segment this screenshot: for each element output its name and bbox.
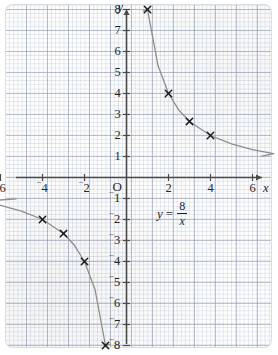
- x-tick-label: ¯4: [37, 182, 48, 195]
- fraction-numerator: 8: [177, 200, 187, 213]
- y-tick-label: ¯3: [110, 234, 121, 247]
- plotted-point-cross: [39, 216, 45, 222]
- x-tick-label: ¯6: [0, 182, 6, 195]
- y-axis-label: y: [118, 0, 124, 15]
- graph-figure: ¯6¯4¯224687654321¯1¯2¯3¯4¯5¯6¯7¯8 O x y …: [0, 0, 278, 355]
- tick-value: 4: [114, 254, 120, 268]
- x-tick-label: 2: [166, 182, 172, 195]
- negative-sign: ¯: [110, 339, 114, 348]
- tick-value: 3: [115, 107, 121, 121]
- y-tick-label: ¯5: [110, 276, 121, 289]
- x-tick-label: 6: [250, 182, 256, 195]
- equation-equals: =: [166, 206, 173, 222]
- negative-sign: ¯: [110, 255, 114, 264]
- tick-value: 5: [115, 65, 121, 79]
- tick-value: 4: [208, 181, 214, 195]
- fraction-denominator: x: [177, 213, 186, 227]
- tick-value: 7: [115, 23, 121, 37]
- negative-sign: ¯: [110, 318, 114, 327]
- tick-value: 6: [0, 181, 6, 195]
- negative-sign: ¯: [110, 297, 114, 306]
- y-tick-label: 1: [115, 150, 121, 163]
- tick-value: 7: [114, 317, 120, 331]
- curve-branch: [148, 10, 274, 154]
- tick-value: 2: [115, 128, 121, 142]
- equation-lhs: y: [157, 206, 163, 222]
- y-tick-label: 4: [115, 87, 121, 100]
- negative-sign: ¯: [110, 234, 114, 243]
- tick-value: 6: [115, 44, 121, 58]
- plotted-point-cross: [60, 230, 66, 236]
- plotted-point-cross: [165, 90, 171, 96]
- plotted-point-cross: [207, 132, 213, 138]
- y-tick-label: 6: [115, 45, 121, 58]
- plotted-point-cross: [81, 258, 87, 264]
- x-tick-label: 4: [208, 182, 214, 195]
- origin-label: O: [113, 179, 122, 195]
- axes-group: [16, 9, 262, 344]
- x-tick-label: ¯2: [79, 182, 90, 195]
- y-tick-label: ¯8: [110, 339, 121, 352]
- x-axis-label: x: [263, 181, 269, 196]
- negative-sign: ¯: [79, 182, 83, 191]
- y-tick-label: 7: [115, 24, 121, 37]
- plotted-point-cross: [186, 118, 192, 124]
- tick-value: 1: [115, 149, 121, 163]
- y-tick-label: 2: [115, 129, 121, 142]
- negative-sign: ¯: [37, 182, 41, 191]
- equation-fraction: 8 x: [177, 200, 187, 227]
- tick-value: 4: [42, 181, 48, 195]
- tick-value: 8: [114, 338, 120, 352]
- tick-value: 5: [114, 275, 120, 289]
- tick-value: 3: [114, 233, 120, 247]
- tick-value: 2: [84, 181, 90, 195]
- curve-tail: [262, 154, 274, 157]
- tick-value: 6: [250, 181, 256, 195]
- y-tick-label: ¯6: [110, 297, 121, 310]
- y-tick-label: 3: [115, 108, 121, 121]
- y-tick-label: 5: [115, 66, 121, 79]
- graph-plot-area: [0, 0, 278, 355]
- negative-sign: ¯: [110, 213, 114, 222]
- tick-value: 6: [114, 296, 120, 310]
- equation-annotation: y = 8 x: [157, 200, 187, 227]
- negative-sign: ¯: [110, 276, 114, 285]
- x-axis-arrow-icon: [256, 175, 262, 181]
- y-tick-label: ¯4: [110, 255, 121, 268]
- curve-branch: [0, 201, 106, 345]
- y-tick-label: ¯7: [110, 318, 121, 331]
- tick-value: 2: [114, 212, 120, 226]
- tick-value: 2: [166, 181, 172, 195]
- tick-value: 4: [115, 86, 121, 100]
- y-tick-label: ¯2: [110, 213, 121, 226]
- curve-tail: [0, 199, 16, 202]
